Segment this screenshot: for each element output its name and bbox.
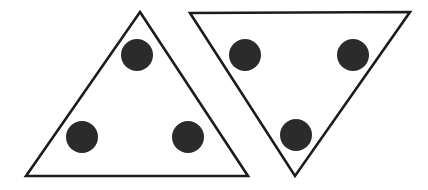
figure-svg <box>0 0 428 190</box>
right-triangle-dot-bottom <box>280 119 312 151</box>
left-triangle-dot-bottom-left <box>66 121 98 153</box>
right-triangle-dot-top-left <box>229 39 261 71</box>
right-triangle-dot-top-right <box>337 39 369 71</box>
left-triangle-dot-top <box>121 39 153 71</box>
left-triangle-dot-bottom-right <box>172 121 204 153</box>
figure-canvas <box>0 0 428 190</box>
